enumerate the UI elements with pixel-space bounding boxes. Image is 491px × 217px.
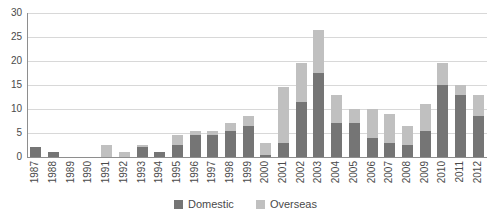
bar-segment-overseas-2004 bbox=[331, 95, 342, 124]
y-tick-label-5: 5 bbox=[2, 127, 22, 139]
bar-segment-domestic-2008 bbox=[402, 145, 413, 157]
x-label-1993: 1993 bbox=[136, 161, 149, 183]
x-label-2009: 2009 bbox=[419, 161, 432, 183]
bar-segment-domestic-2010 bbox=[437, 85, 448, 157]
x-label-2001: 2001 bbox=[277, 161, 290, 183]
bar-2001 bbox=[278, 87, 289, 157]
bar-2007 bbox=[384, 114, 395, 157]
bar-2010 bbox=[437, 63, 448, 157]
bar-segment-overseas-2006 bbox=[367, 109, 378, 138]
bar-1991 bbox=[101, 145, 112, 157]
x-label-2008: 2008 bbox=[401, 161, 414, 183]
bar-2002 bbox=[296, 63, 307, 157]
overseas-swatch-icon bbox=[256, 200, 265, 209]
bar-segment-overseas-2008 bbox=[402, 126, 413, 145]
bar-segment-domestic-1987 bbox=[30, 147, 41, 157]
x-label-2004: 2004 bbox=[330, 161, 343, 183]
bar-segment-domestic-2006 bbox=[367, 138, 378, 157]
x-label-2007: 2007 bbox=[383, 161, 396, 183]
bar-segment-overseas-1996 bbox=[190, 131, 201, 136]
bar-1998 bbox=[225, 123, 236, 157]
x-label-1996: 1996 bbox=[189, 161, 202, 183]
bar-2004 bbox=[331, 95, 342, 157]
gridline-5 bbox=[27, 133, 487, 134]
bar-segment-domestic-1997 bbox=[207, 135, 218, 157]
y-axis-line bbox=[27, 13, 28, 158]
bar-segment-overseas-2012 bbox=[473, 95, 484, 117]
gridline-30 bbox=[27, 13, 487, 14]
bar-segment-overseas-2003 bbox=[313, 30, 324, 73]
legend-label-overseas: Overseas bbox=[270, 198, 317, 210]
bar-segment-domestic-2003 bbox=[313, 73, 324, 157]
legend-label-domestic: Domestic bbox=[188, 198, 234, 210]
x-label-1989: 1989 bbox=[65, 161, 78, 183]
x-label-1998: 1998 bbox=[224, 161, 237, 183]
bar-segment-overseas-2000 bbox=[260, 143, 271, 155]
gridline-20 bbox=[27, 61, 487, 62]
bar-2003 bbox=[313, 30, 324, 157]
x-label-2011: 2011 bbox=[454, 161, 467, 183]
y-tick-label-15: 15 bbox=[2, 79, 22, 91]
bar-segment-overseas-2007 bbox=[384, 114, 395, 143]
x-label-1991: 1991 bbox=[100, 161, 113, 183]
bar-1995 bbox=[172, 135, 183, 157]
bar-segment-domestic-2004 bbox=[331, 123, 342, 157]
bar-segment-overseas-2010 bbox=[437, 63, 448, 85]
x-label-1990: 1990 bbox=[82, 161, 95, 183]
bar-segment-domestic-1998 bbox=[225, 131, 236, 157]
stacked-bar-chart: 051015202530 198719881989199019911992199… bbox=[0, 0, 491, 217]
x-label-1987: 1987 bbox=[29, 161, 42, 183]
x-label-2006: 2006 bbox=[366, 161, 379, 183]
bar-segment-overseas-2002 bbox=[296, 63, 307, 101]
bar-segment-overseas-1991 bbox=[101, 145, 112, 157]
bar-segment-domestic-2011 bbox=[455, 95, 466, 157]
x-label-2010: 2010 bbox=[436, 161, 449, 183]
bar-1987 bbox=[30, 147, 41, 157]
legend-item-overseas: Overseas bbox=[256, 198, 317, 210]
x-label-2003: 2003 bbox=[312, 161, 325, 183]
bar-segment-overseas-1999 bbox=[243, 116, 254, 126]
x-label-1992: 1992 bbox=[118, 161, 131, 183]
y-tick-label-25: 25 bbox=[2, 31, 22, 43]
x-label-1994: 1994 bbox=[153, 161, 166, 183]
bar-segment-overseas-2009 bbox=[420, 104, 431, 130]
bar-2005 bbox=[349, 109, 360, 157]
y-tick-label-20: 20 bbox=[2, 55, 22, 67]
legend: Domestic Overseas bbox=[0, 198, 491, 210]
y-tick-label-10: 10 bbox=[2, 103, 22, 115]
bar-segment-overseas-2011 bbox=[455, 85, 466, 95]
bar-segment-domestic-1995 bbox=[172, 145, 183, 157]
bar-segment-domestic-2009 bbox=[420, 131, 431, 157]
x-label-2005: 2005 bbox=[348, 161, 361, 183]
bar-segment-domestic-1993 bbox=[137, 147, 148, 157]
bar-segment-domestic-2012 bbox=[473, 116, 484, 157]
x-label-1988: 1988 bbox=[47, 161, 60, 183]
bar-segment-domestic-2001 bbox=[278, 143, 289, 157]
gridline-25 bbox=[27, 37, 487, 38]
gridline-15 bbox=[27, 85, 487, 86]
bar-segment-overseas-2005 bbox=[349, 109, 360, 123]
bar-1999 bbox=[243, 116, 254, 157]
bar-1997 bbox=[207, 131, 218, 157]
bar-2011 bbox=[455, 85, 466, 157]
x-axis-line bbox=[27, 157, 487, 158]
bar-segment-overseas-1998 bbox=[225, 123, 236, 130]
bar-2006 bbox=[367, 109, 378, 157]
domestic-swatch-icon bbox=[174, 200, 183, 209]
legend-item-domestic: Domestic bbox=[174, 198, 234, 210]
x-label-1995: 1995 bbox=[171, 161, 184, 183]
bar-1996 bbox=[190, 131, 201, 157]
y-tick-label-0: 0 bbox=[2, 151, 22, 163]
bar-segment-overseas-1995 bbox=[172, 135, 183, 145]
bar-1993 bbox=[137, 145, 148, 157]
bar-segment-overseas-1997 bbox=[207, 131, 218, 136]
bar-segment-domestic-2007 bbox=[384, 143, 395, 157]
x-label-2012: 2012 bbox=[472, 161, 485, 183]
y-tick-label-30: 30 bbox=[2, 7, 22, 19]
bar-segment-domestic-1996 bbox=[190, 135, 201, 157]
bar-segment-overseas-2001 bbox=[278, 87, 289, 142]
bar-segment-domestic-2005 bbox=[349, 123, 360, 157]
gridline-10 bbox=[27, 109, 487, 110]
x-label-2002: 2002 bbox=[295, 161, 308, 183]
bar-segment-overseas-1993 bbox=[137, 145, 148, 147]
